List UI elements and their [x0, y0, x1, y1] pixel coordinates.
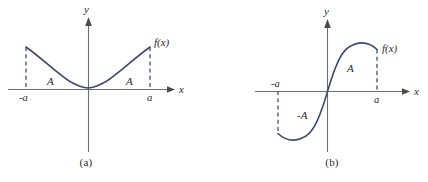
figure-stage: x y f(x) -a a A A (a): [0, 0, 428, 182]
tick-label-a: a: [147, 92, 152, 103]
figure-panel-b: x y f(x) -a a A -A (b): [214, 0, 428, 182]
area-label-upper-b: A: [346, 62, 354, 74]
y-axis-label-b: y: [323, 5, 329, 17]
tick-label-a-b: a: [374, 94, 379, 105]
area-label-right-a: A: [125, 75, 133, 87]
y-axis-label-a: y: [83, 3, 89, 15]
x-axis-label-a: x: [178, 83, 184, 95]
panel-caption-b: (b): [225, 156, 428, 168]
area-label-lower-b: -A: [297, 109, 308, 121]
area-label-left-a: A: [46, 75, 54, 87]
tick-label-minus-a-b: -a: [271, 78, 280, 89]
panel-b-graph: x y f(x) -a a A -A: [214, 0, 428, 182]
panel-caption-a: (a): [0, 156, 193, 168]
panel-a-graph: x y f(x) -a a A A: [0, 0, 214, 182]
figure-panel-a: x y f(x) -a a A A (a): [0, 0, 214, 182]
tick-label-minus-a: -a: [19, 92, 28, 103]
x-axis-label-b: x: [413, 85, 419, 97]
function-label-a: f(x): [154, 36, 170, 49]
function-label-b: f(x): [382, 42, 398, 55]
y-axis-a: [85, 17, 92, 152]
